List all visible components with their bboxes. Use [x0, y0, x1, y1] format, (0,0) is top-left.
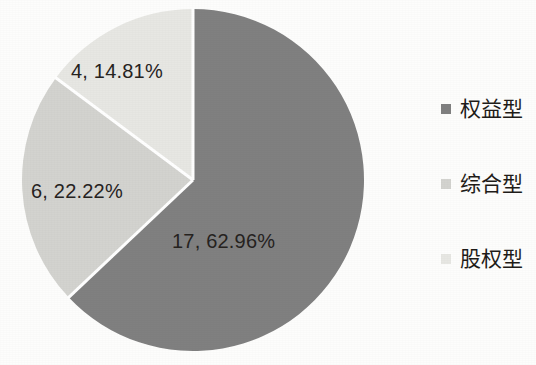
legend-item-0[interactable]: 权益型	[441, 95, 536, 122]
legend-label-2: 股权型	[460, 247, 523, 270]
pie-plot-area: 17, 62.96% 6, 22.22% 4, 14.81%	[0, 0, 400, 365]
slice-label-1: 6, 22.22%	[31, 180, 123, 203]
legend-swatch-icon-0	[441, 104, 451, 114]
chart-legend: 权益型 综合型 股权型	[441, 95, 536, 272]
legend-item-2[interactable]: 股权型	[441, 245, 536, 272]
legend-label-1: 综合型	[460, 172, 523, 195]
legend-swatch-icon-1	[441, 179, 451, 189]
slice-label-2: 4, 14.81%	[71, 60, 163, 83]
legend-swatch-icon-2	[441, 254, 451, 264]
slice-label-0: 17, 62.96%	[172, 230, 275, 253]
legend-item-1[interactable]: 综合型	[441, 170, 536, 197]
pie-chart: 17, 62.96% 6, 22.22% 4, 14.81% 权益型 综合型 股…	[0, 0, 536, 365]
legend-label-0: 权益型	[460, 97, 523, 120]
